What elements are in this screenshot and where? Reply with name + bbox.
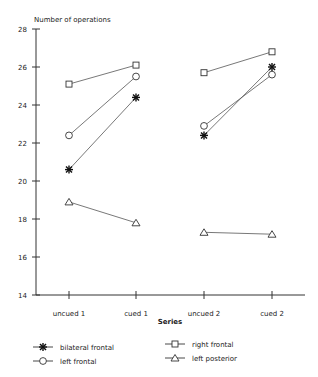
legend-item: left posterior — [165, 355, 237, 363]
triangle-marker-icon — [132, 219, 140, 226]
legend-label: right frontal — [192, 341, 234, 349]
x-axis-label: Series — [158, 318, 183, 326]
circle-marker-icon — [201, 123, 208, 130]
y-tick-label: 20 — [18, 178, 27, 186]
y-tick-label: 18 — [18, 216, 27, 224]
y-tick-label: 26 — [18, 64, 27, 72]
circle-marker-icon — [40, 358, 47, 365]
circle-marker-icon — [66, 132, 73, 139]
asterisk-marker-icon — [200, 131, 208, 139]
circle-marker-icon — [269, 71, 276, 78]
line-chart: Number of operations1416182022242628uncu… — [0, 0, 318, 377]
square-marker-icon — [172, 341, 178, 347]
y-tick-label: 24 — [18, 102, 27, 110]
asterisk-marker-icon — [39, 343, 47, 351]
legend-item: bilateral frontal — [33, 343, 114, 352]
square-marker-icon — [133, 62, 139, 68]
square-marker-icon — [201, 70, 207, 76]
square-marker-icon — [66, 81, 72, 87]
triangle-marker-icon — [65, 198, 73, 205]
asterisk-marker-icon — [65, 166, 73, 174]
legend-label: left frontal — [60, 358, 97, 366]
y-axis-label: Number of operations — [34, 16, 111, 24]
asterisk-marker-icon — [268, 63, 276, 71]
asterisk-marker-icon — [132, 93, 140, 101]
legend-label: left posterior — [192, 355, 237, 363]
y-tick-label: 28 — [18, 26, 27, 34]
y-tick-label: 14 — [18, 292, 27, 300]
x-tick-label: cued 2 — [260, 310, 284, 318]
legend-item: left frontal — [33, 358, 97, 366]
series-left-frontal — [66, 71, 276, 139]
series-left-posterior — [65, 198, 276, 237]
series-right-frontal — [66, 49, 275, 87]
legend-label: bilateral frontal — [60, 344, 114, 352]
legend-item: right frontal — [165, 341, 234, 349]
x-tick-label: cued 1 — [124, 310, 148, 318]
x-tick-label: uncued 1 — [53, 310, 86, 318]
circle-marker-icon — [133, 73, 140, 80]
y-tick-label: 22 — [18, 140, 27, 148]
square-marker-icon — [269, 49, 275, 55]
x-tick-label: uncued 2 — [188, 310, 221, 318]
legend: bilateral frontalleft frontalright front… — [33, 341, 237, 366]
y-tick-label: 16 — [18, 254, 27, 262]
series-bilateral-frontal — [65, 63, 276, 174]
